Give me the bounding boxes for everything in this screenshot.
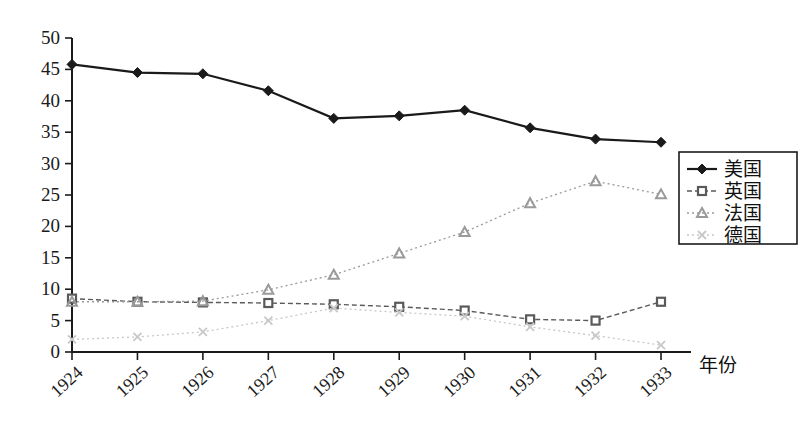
y-axis: 05101520253035404550	[41, 27, 72, 362]
x-tick-label: 1927	[243, 362, 283, 401]
y-tick-label: 0	[51, 341, 61, 362]
x-tick-label: 1932	[570, 362, 610, 401]
series-line	[72, 181, 661, 302]
data-point	[525, 123, 535, 133]
series-line	[72, 64, 661, 142]
x-tick-label: 1929	[374, 362, 414, 401]
line-chart: 0510152025303540455019241925192619271928…	[0, 0, 810, 424]
data-point	[329, 270, 339, 279]
legend-marker-2	[698, 187, 706, 195]
data-point	[592, 317, 600, 325]
x-tick-label: 1930	[439, 362, 479, 401]
data-point	[264, 299, 272, 307]
data-point	[199, 328, 207, 336]
x-axis: 1924192519261927192819291930193119321933…	[47, 352, 737, 401]
chart-canvas: 0510152025303540455019241925192619271928…	[0, 0, 810, 424]
data-point	[460, 227, 470, 236]
data-point	[263, 285, 273, 294]
data-point	[460, 105, 470, 115]
series-3	[67, 176, 666, 306]
axis-lines	[72, 38, 691, 352]
y-tick-label: 10	[41, 278, 60, 299]
data-point	[591, 176, 601, 185]
x-tick-label: 1924	[47, 362, 87, 401]
legend: 美国英国法国德国	[679, 152, 797, 246]
x-tick-label: 1926	[177, 362, 217, 401]
legend-label-2: 英国	[724, 181, 762, 202]
x-tick-label: 1928	[308, 362, 348, 401]
y-tick-label: 35	[41, 121, 60, 142]
data-point	[656, 189, 666, 198]
data-point	[525, 198, 535, 207]
y-tick-label: 25	[41, 184, 60, 205]
data-point	[329, 113, 339, 123]
y-tick-label: 30	[41, 153, 60, 174]
x-tick-label: 1933	[636, 362, 676, 401]
axes-group	[72, 38, 691, 352]
x-axis-title: 年份	[699, 355, 737, 376]
data-point	[657, 298, 665, 306]
legend-label-1: 美国	[724, 159, 762, 180]
legend-label-4: 德国	[724, 225, 762, 246]
y-tick-label: 5	[51, 310, 61, 331]
y-tick-label: 50	[41, 27, 60, 48]
data-point	[133, 333, 141, 341]
data-point	[198, 69, 208, 79]
x-tick-label: 1931	[505, 362, 545, 401]
data-point	[394, 111, 404, 121]
y-tick-label: 15	[41, 247, 60, 268]
data-point	[394, 248, 404, 257]
x-tick-label: 1925	[112, 362, 152, 401]
data-point	[132, 68, 142, 78]
data-point	[591, 134, 601, 144]
data-point	[263, 86, 273, 96]
y-tick-label: 20	[41, 215, 60, 236]
legend-label-3: 法国	[724, 203, 762, 224]
data-point	[526, 315, 534, 323]
series-1	[67, 59, 666, 147]
series-line	[72, 308, 661, 345]
data-point	[656, 137, 666, 147]
data-point	[67, 59, 77, 69]
y-tick-label: 45	[41, 58, 60, 79]
series-4	[68, 304, 665, 349]
y-tick-label: 40	[41, 90, 60, 111]
